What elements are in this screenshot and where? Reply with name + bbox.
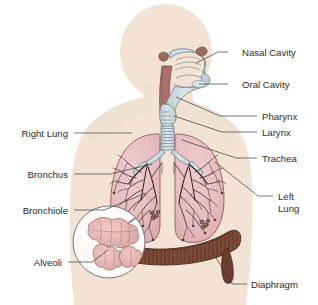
label-diaphragm: Diaphragm	[251, 279, 298, 290]
alveoli-inset	[73, 206, 145, 278]
label-trachea: Trachea	[262, 153, 298, 164]
label-larynx: Larynx	[262, 127, 291, 138]
label-right-lung: Right Lung	[22, 128, 68, 139]
label-pharynx: Pharynx	[262, 111, 297, 122]
label-bronchus: Bronchus	[27, 169, 68, 180]
labels-left: Right Lung Bronchus Bronchiole Alveoli	[22, 128, 69, 268]
label-oral-cavity: Oral Cavity	[242, 79, 290, 90]
label-alveoli: Alveoli	[34, 257, 62, 268]
label-left-lung-line2: Lung	[278, 203, 299, 214]
label-bronchiole: Bronchiole	[23, 205, 68, 216]
anatomy-illustration: Nasal Cavity Oral Cavity Pharynx Larynx …	[0, 0, 318, 305]
larynx-trachea	[160, 104, 177, 150]
respiratory-system-diagram: Nasal Cavity Oral Cavity Pharynx Larynx …	[0, 0, 318, 305]
label-nasal-cavity: Nasal Cavity	[242, 47, 296, 58]
label-left-lung-line1: Left	[278, 191, 294, 202]
